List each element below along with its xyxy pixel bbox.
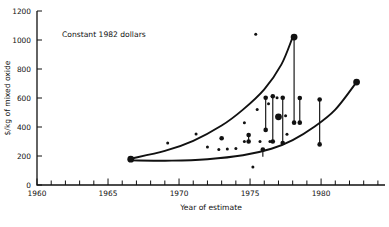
envelope-curve	[131, 37, 293, 159]
data-point	[275, 113, 282, 120]
chart-canvas: 0200400600800100012001960196519701975198…	[0, 0, 389, 227]
data-point	[226, 148, 229, 151]
error-bar-cap	[246, 133, 251, 138]
data-point	[127, 156, 134, 163]
y-tick-label: 400	[17, 123, 31, 132]
y-tick-label: 200	[17, 152, 31, 161]
data-point	[267, 102, 270, 105]
data-point	[298, 97, 301, 100]
data-point	[251, 166, 254, 169]
x-tick-label: 1970	[170, 189, 189, 198]
error-bar-cap	[292, 120, 297, 125]
data-point	[243, 140, 246, 143]
chart-annotation: Constant 1982 dollars	[62, 30, 146, 39]
data-point	[254, 33, 257, 36]
error-bar-cap	[317, 142, 322, 147]
data-point	[259, 140, 262, 143]
data-point	[291, 34, 298, 41]
data-point	[276, 96, 279, 99]
chart-figure: 0200400600800100012001960196519701975198…	[0, 0, 389, 227]
x-axis-title: Year of estimate	[179, 203, 242, 212]
error-bar-cap	[261, 147, 266, 152]
data-point	[166, 141, 169, 144]
data-point	[234, 147, 237, 150]
data-point	[271, 95, 274, 98]
x-tick-label: 1980	[312, 189, 331, 198]
y-axis-title: $/kg of mixed oxide	[3, 60, 12, 135]
x-tick-label: 1975	[241, 189, 260, 198]
data-point	[353, 79, 360, 86]
data-point	[217, 148, 220, 151]
data-point	[285, 133, 288, 136]
x-tick-label: 1960	[28, 189, 47, 198]
data-points	[127, 33, 360, 169]
x-tick-label: 1965	[99, 189, 118, 198]
y-tick-label: 600	[17, 94, 31, 103]
data-point	[206, 146, 209, 149]
data-point	[281, 96, 284, 99]
data-point	[195, 132, 198, 135]
data-point	[268, 140, 271, 143]
error-bar-cap	[280, 141, 285, 146]
y-tick-label: 800	[17, 65, 31, 74]
y-tick-label: 1000	[12, 36, 31, 45]
error-bar-cap	[246, 139, 251, 144]
data-point	[318, 98, 321, 101]
data-point	[243, 121, 246, 124]
data-point	[219, 136, 224, 141]
error-bar-cap	[263, 128, 268, 133]
data-point	[284, 114, 287, 117]
data-point	[264, 96, 267, 99]
data-point	[256, 108, 259, 111]
error-bar-cap	[297, 120, 302, 125]
y-tick-label: 1200	[12, 7, 31, 16]
